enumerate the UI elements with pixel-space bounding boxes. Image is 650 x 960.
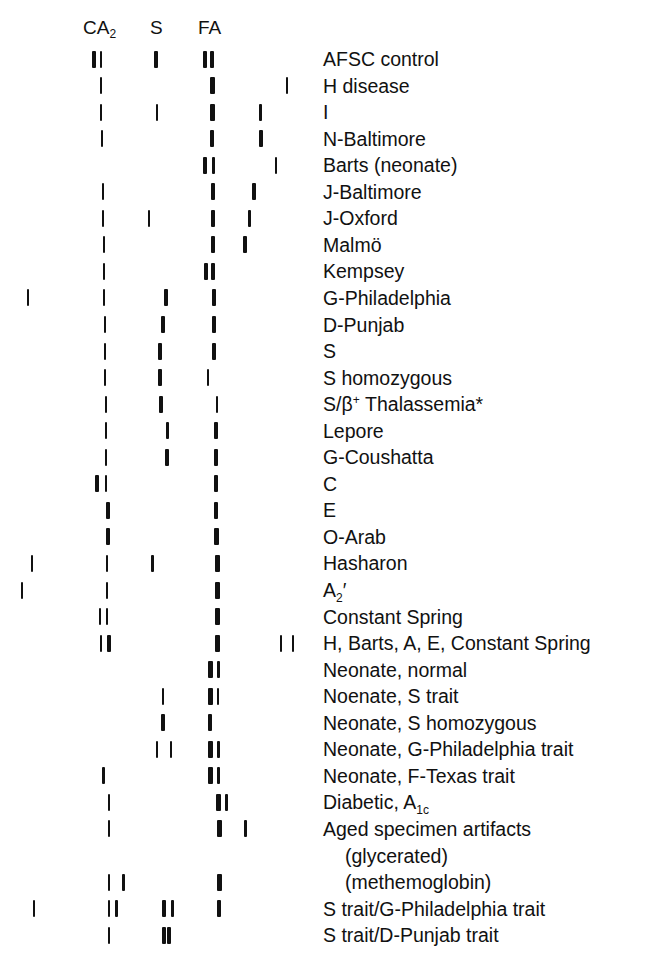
label-text: I bbox=[323, 101, 328, 123]
variant-label: Neonate, G-Philadelphia trait bbox=[323, 738, 573, 760]
band bbox=[122, 874, 125, 891]
band bbox=[217, 767, 220, 784]
label-text: Constant Spring bbox=[323, 606, 463, 628]
label-text: S homozygous bbox=[323, 367, 452, 389]
label-text: Neonate, S homozygous bbox=[323, 712, 537, 734]
variant-label: S homozygous bbox=[323, 367, 452, 389]
band bbox=[154, 51, 158, 68]
band bbox=[100, 77, 102, 94]
band bbox=[243, 236, 247, 253]
label-text: H, Barts, A, E, Constant Spring bbox=[323, 632, 591, 654]
band bbox=[210, 130, 214, 147]
label-text: Neonate, normal bbox=[323, 659, 467, 681]
variant-label: Aged specimen artifacts bbox=[323, 818, 531, 840]
band bbox=[214, 422, 219, 439]
band bbox=[159, 396, 163, 413]
band bbox=[106, 502, 110, 519]
variant-label: G-Coushatta bbox=[323, 446, 434, 468]
label-text: (glycerated) bbox=[345, 845, 448, 867]
band bbox=[208, 714, 212, 731]
variant-label: Lepore bbox=[323, 420, 384, 442]
band bbox=[212, 289, 216, 306]
band bbox=[148, 210, 150, 227]
label-text: Diabetic, A bbox=[323, 791, 416, 813]
variant-label: (glycerated) bbox=[345, 845, 448, 867]
band bbox=[99, 608, 101, 625]
label-text: S trait/D-Punjab trait bbox=[323, 924, 499, 946]
label-suffix: ′ bbox=[343, 579, 347, 601]
band bbox=[166, 422, 169, 439]
label-superscript: + bbox=[353, 393, 360, 407]
band bbox=[106, 528, 110, 545]
band bbox=[105, 475, 107, 492]
band bbox=[92, 51, 96, 68]
variant-label: Malmö bbox=[323, 234, 382, 256]
band bbox=[33, 900, 35, 917]
column-label-s: S bbox=[150, 18, 163, 38]
label-text: E bbox=[323, 499, 336, 521]
band bbox=[211, 210, 215, 227]
variant-label: AFSC control bbox=[323, 48, 439, 70]
variant-label: S/β+ Thalassemia* bbox=[323, 393, 483, 415]
band bbox=[208, 741, 213, 758]
label-text: G-Coushatta bbox=[323, 446, 434, 468]
variant-label: H, Barts, A, E, Constant Spring bbox=[323, 632, 591, 654]
band bbox=[158, 343, 162, 360]
band bbox=[21, 582, 23, 599]
band bbox=[215, 555, 220, 572]
band bbox=[244, 820, 247, 837]
variant-label: I bbox=[323, 101, 328, 123]
band bbox=[212, 157, 215, 174]
band bbox=[214, 449, 219, 466]
label-text: Neonate, F-Texas trait bbox=[323, 765, 515, 787]
band bbox=[211, 183, 215, 200]
band bbox=[100, 635, 102, 652]
band bbox=[214, 475, 219, 492]
label-text: Hasharon bbox=[323, 552, 408, 574]
variant-label: H disease bbox=[323, 75, 410, 97]
label-text: S/β bbox=[323, 393, 353, 415]
label-text: Kempsey bbox=[323, 260, 404, 282]
variant-label: O-Arab bbox=[323, 526, 386, 548]
band bbox=[248, 210, 251, 227]
variant-label: G-Philadelphia bbox=[323, 287, 451, 309]
variant-label: (methemoglobin) bbox=[345, 871, 491, 893]
band bbox=[104, 369, 106, 386]
band bbox=[108, 900, 110, 917]
label-text: G-Philadelphia bbox=[323, 287, 451, 309]
band bbox=[165, 449, 169, 466]
band bbox=[103, 236, 105, 253]
ca2-text: CA bbox=[83, 17, 109, 38]
label-text: AFSC control bbox=[323, 48, 439, 70]
variant-label: D-Punjab bbox=[323, 314, 404, 336]
band bbox=[208, 661, 213, 678]
band bbox=[105, 449, 107, 466]
band bbox=[211, 263, 215, 280]
label-text: S bbox=[323, 340, 336, 362]
label-text: H disease bbox=[323, 75, 410, 97]
band bbox=[212, 343, 216, 360]
band bbox=[217, 688, 219, 705]
variant-label: C bbox=[323, 473, 337, 495]
band bbox=[103, 289, 105, 306]
variant-label: J-Baltimore bbox=[323, 181, 422, 203]
band bbox=[203, 157, 207, 174]
label-text: D-Punjab bbox=[323, 314, 404, 336]
band bbox=[217, 820, 222, 837]
band bbox=[104, 316, 106, 333]
band bbox=[106, 555, 108, 572]
variant-label: Neonate, F-Texas trait bbox=[323, 765, 515, 787]
band bbox=[108, 927, 110, 944]
band bbox=[217, 874, 222, 891]
band bbox=[217, 661, 220, 678]
variant-label: S trait/D-Punjab trait bbox=[323, 924, 499, 946]
variant-label: N-Baltimore bbox=[323, 128, 426, 150]
variant-label: Barts (neonate) bbox=[323, 154, 457, 176]
band bbox=[280, 635, 282, 652]
band bbox=[216, 794, 221, 811]
band bbox=[162, 927, 166, 944]
band bbox=[217, 741, 220, 758]
band bbox=[162, 688, 164, 705]
band bbox=[103, 263, 105, 280]
label-subscript: 1c bbox=[416, 803, 429, 817]
